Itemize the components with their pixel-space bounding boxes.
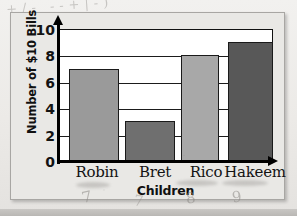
bar-chart: 10 8 6 4 2 0 Number of $10 Bills Robin	[10, 12, 285, 200]
plot-area	[58, 29, 273, 161]
y-axis-title: Number of $10 Bills	[25, 10, 39, 134]
scanned-page: +/- --+|-) 10 8 6 4 2 0 Number of $10 Bi…	[0, 0, 297, 216]
bar-robin	[69, 69, 119, 161]
bar-rico	[181, 55, 219, 161]
category-label-hakeem: Hakeem	[221, 163, 289, 181]
bar-hakeem	[228, 42, 273, 161]
y-axis-line	[57, 23, 60, 164]
bar-bret	[125, 121, 175, 161]
y-tick-0: 0	[27, 155, 55, 169]
scan-bottom-edge	[0, 209, 297, 216]
y-axis-arrow-icon	[53, 15, 63, 25]
x-axis-title: Children	[58, 183, 273, 198]
